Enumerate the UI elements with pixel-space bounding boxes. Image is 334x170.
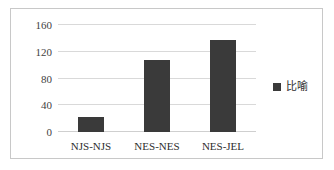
legend-label: 比喻 (286, 81, 308, 92)
bar (144, 60, 170, 132)
y-axis-tick-label: 80 (41, 73, 52, 84)
x-axis-category-label: NES-NES (134, 141, 179, 152)
y-axis-tick-label: 40 (41, 100, 52, 111)
plot-area: 04080120160 NJS-NJSNES-NESNES-JEL (58, 25, 256, 132)
x-axis-category-label: NES-JEL (202, 141, 244, 152)
bar-group: NES-NES (124, 25, 190, 132)
y-axis-tick-label: 120 (36, 46, 53, 57)
chart-legend: 比喻 (273, 81, 308, 92)
bar-group: NJS-NJS (58, 25, 124, 132)
bar (78, 117, 104, 132)
x-axis-category-label: NJS-NJS (71, 141, 111, 152)
chart-frame: 04080120160 NJS-NJSNES-NESNES-JEL 比喻 (10, 8, 323, 159)
bar (210, 40, 236, 132)
y-axis-tick-label: 0 (47, 127, 53, 138)
bar-group: NES-JEL (190, 25, 256, 132)
legend-swatch-icon (273, 83, 281, 91)
y-axis-tick-label: 160 (36, 20, 53, 31)
